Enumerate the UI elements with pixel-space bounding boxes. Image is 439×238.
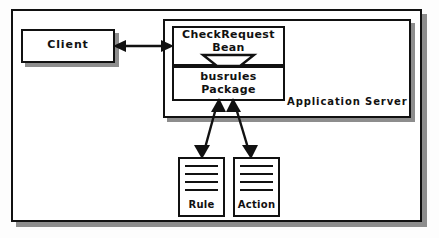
action-label: Action	[235, 199, 278, 210]
package-label-line1: busrules	[200, 70, 257, 83]
application-server-label: Application Server	[287, 96, 408, 108]
bean-label-line1: CheckRequest	[182, 28, 275, 41]
rule-document-box[interactable]: Rule	[178, 157, 225, 217]
action-document-box[interactable]: Action	[233, 157, 280, 217]
checkrequest-bean-label: CheckRequest Bean	[172, 29, 285, 55]
bean-label-line2: Bean	[212, 41, 245, 54]
package-label-line2: Package	[201, 83, 256, 96]
rule-document-lines-icon	[185, 165, 218, 195]
rule-label: Rule	[180, 199, 223, 210]
busrules-package-label: busrules Package	[172, 71, 285, 97]
action-document-lines-icon	[240, 165, 273, 195]
diagram-canvas: Application Server Client CheckRequest B…	[0, 0, 439, 238]
client-label: Client	[21, 39, 115, 52]
